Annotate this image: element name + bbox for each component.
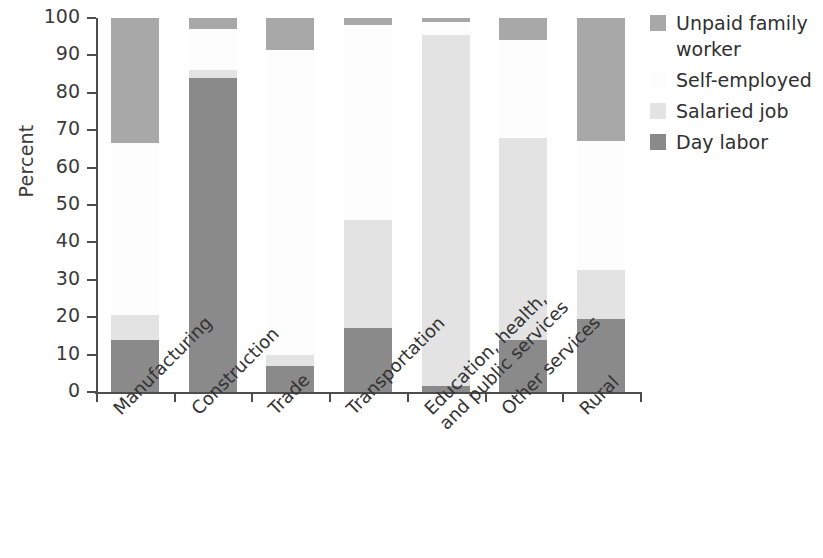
- y-tick-100: 100: [87, 17, 96, 19]
- segment-self-employed[interactable]: [499, 40, 547, 137]
- x-tick-7: [640, 392, 642, 402]
- legend-item-self-employed[interactable]: Self-employed: [650, 67, 823, 93]
- legend-label-salaried-job: Salaried job: [676, 98, 823, 124]
- segment-salaried-job[interactable]: [266, 355, 314, 366]
- legend-item-day-labor[interactable]: Day labor: [650, 129, 823, 155]
- y-tick-40: 40: [87, 241, 96, 243]
- y-axis-title: Percent: [15, 101, 37, 221]
- legend-label-day-labor: Day labor: [676, 129, 823, 155]
- x-tick-2: [251, 392, 253, 402]
- segment-self-employed[interactable]: [189, 29, 237, 70]
- segment-salaried-job[interactable]: [344, 220, 392, 328]
- segment-unpaid-family-worker[interactable]: [344, 18, 392, 25]
- y-tick-10: 10: [87, 354, 96, 356]
- legend-swatch-salaried-job: [650, 103, 666, 119]
- y-tick-0: 0: [87, 391, 96, 393]
- y-tick-90: 90: [87, 54, 96, 56]
- y-tick-label-70: 70: [56, 117, 80, 139]
- legend-swatch-self-employed: [650, 72, 666, 88]
- segment-salaried-job[interactable]: [189, 70, 237, 77]
- y-tick-label-30: 30: [56, 267, 80, 289]
- bar-manufacturing[interactable]: [111, 18, 159, 392]
- y-tick-80: 80: [87, 92, 96, 94]
- segment-unpaid-family-worker[interactable]: [499, 18, 547, 40]
- y-tick-60: 60: [87, 167, 96, 169]
- y-tick-label-50: 50: [56, 192, 80, 214]
- segment-unpaid-family-worker[interactable]: [111, 18, 159, 143]
- segment-self-employed[interactable]: [344, 25, 392, 219]
- legend-label-unpaid-family-worker: Unpaid family worker: [676, 10, 823, 62]
- segment-unpaid-family-worker[interactable]: [577, 18, 625, 141]
- y-tick-label-80: 80: [56, 80, 80, 102]
- y-axis-line: [96, 18, 98, 392]
- segment-self-employed[interactable]: [577, 141, 625, 270]
- y-tick-50: 50: [87, 204, 96, 206]
- segment-self-employed[interactable]: [422, 22, 470, 35]
- chart-legend: Unpaid family worker Self-employed Salar…: [650, 10, 823, 160]
- segment-unpaid-family-worker[interactable]: [266, 18, 314, 50]
- segment-unpaid-family-worker[interactable]: [422, 18, 470, 22]
- segment-self-employed[interactable]: [111, 143, 159, 315]
- y-tick-label-40: 40: [56, 229, 80, 251]
- y-tick-label-60: 60: [56, 155, 80, 177]
- segment-salaried-job[interactable]: [577, 270, 625, 319]
- legend-item-salaried-job[interactable]: Salaried job: [650, 98, 823, 124]
- y-tick-label-20: 20: [56, 304, 80, 326]
- legend-swatch-unpaid-family-worker: [650, 15, 666, 31]
- segment-salaried-job[interactable]: [111, 315, 159, 339]
- y-tick-label-100: 100: [44, 5, 80, 27]
- y-tick-label-90: 90: [56, 42, 80, 64]
- y-tick-label-0: 0: [68, 379, 80, 401]
- x-tick-6: [562, 392, 564, 402]
- y-tick-20: 20: [87, 316, 96, 318]
- segment-self-employed[interactable]: [266, 50, 314, 355]
- x-tick-1: [174, 392, 176, 402]
- bar-transportation[interactable]: [344, 18, 392, 392]
- x-tick-0: [96, 392, 98, 402]
- legend-label-self-employed: Self-employed: [676, 67, 823, 93]
- y-tick-30: 30: [87, 279, 96, 281]
- x-tick-4: [407, 392, 409, 402]
- legend-swatch-day-labor: [650, 134, 666, 150]
- x-tick-3: [329, 392, 331, 402]
- legend-item-unpaid-family-worker[interactable]: Unpaid family worker: [650, 10, 823, 62]
- segment-unpaid-family-worker[interactable]: [189, 18, 237, 29]
- y-tick-label-10: 10: [56, 342, 80, 364]
- y-tick-70: 70: [87, 129, 96, 131]
- stacked-bar-chart: Percent 0102030405060708090100 Manufactu…: [0, 0, 823, 558]
